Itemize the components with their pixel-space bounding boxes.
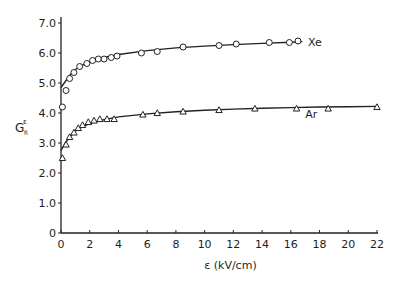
y-tick-label: 0 <box>49 227 56 240</box>
circle-marker <box>90 58 96 64</box>
x-tick-label: 22 <box>370 238 384 251</box>
axes: 01.02.03.04.05.06.07.0024681012141618202… <box>39 17 385 251</box>
circle-marker <box>114 53 120 59</box>
series-layer <box>59 38 380 161</box>
circle-marker <box>233 41 239 47</box>
circle-marker <box>77 64 83 70</box>
y-tick-label: 2.0 <box>39 167 57 180</box>
circle-marker <box>108 55 114 61</box>
circle-marker <box>266 40 272 46</box>
x-tick-label: 20 <box>341 238 355 251</box>
y-tick-label: 1.0 <box>39 197 57 210</box>
x-tick-label: 2 <box>86 238 93 251</box>
series-xe <box>59 38 302 110</box>
triangle-marker <box>97 116 103 122</box>
x-tick-label: 0 <box>58 238 65 251</box>
series-ar <box>59 104 380 161</box>
triangle-marker <box>85 119 91 125</box>
x-tick-label: 14 <box>255 238 269 251</box>
series-label-xe: Xe <box>308 36 322 49</box>
chart-container: 01.02.03.04.05.06.07.0024681012141618202… <box>0 0 403 292</box>
x-tick-label: 12 <box>226 238 240 251</box>
x-tick-label: 10 <box>198 238 212 251</box>
circle-marker <box>67 76 73 82</box>
y-tick-label: 5.0 <box>39 77 57 90</box>
y-tick-label: 4.0 <box>39 107 57 120</box>
x-tick-label: 16 <box>284 238 298 251</box>
circle-marker <box>59 104 65 110</box>
series-label-ar: Ar <box>305 108 318 121</box>
circle-marker <box>71 70 77 76</box>
y-tick-label: 7.0 <box>39 17 57 30</box>
circle-marker <box>295 38 301 44</box>
circle-marker <box>154 49 160 55</box>
triangle-marker <box>325 105 331 111</box>
x-tick-label: 18 <box>313 238 327 251</box>
x-axis-title: ε (kV/cm) <box>204 259 256 272</box>
x-tick-label: 4 <box>115 238 122 251</box>
y-tick-label: 6.0 <box>39 47 57 60</box>
y-axis-title-subscript: fi <box>24 129 28 136</box>
x-tick-label: 8 <box>172 238 179 251</box>
circle-marker <box>138 50 144 56</box>
triangle-marker <box>63 141 69 147</box>
circle-marker <box>180 44 186 50</box>
triangle-marker <box>59 155 65 161</box>
circle-marker <box>95 56 101 62</box>
x-tick-label: 6 <box>144 238 151 251</box>
y-axis-title-superscript: ε <box>23 118 27 126</box>
circle-marker <box>84 61 90 67</box>
triangle-marker <box>91 117 97 123</box>
circle-marker <box>216 43 222 49</box>
circle-marker <box>101 56 107 62</box>
circle-marker <box>63 88 69 94</box>
scatter-plot: 01.02.03.04.05.06.07.0024681012141618202… <box>0 0 403 292</box>
circle-marker <box>286 40 292 46</box>
y-tick-label: 3.0 <box>39 137 57 150</box>
